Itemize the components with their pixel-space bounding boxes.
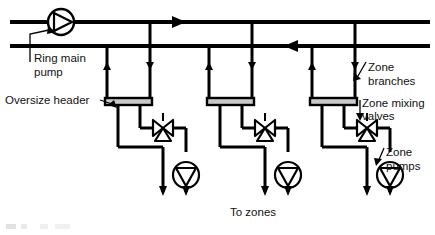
zone-mixing-valves-label-line1: Zone mixing [362,97,425,109]
zone-2-arrow-b-icon [248,62,256,70]
label-zone-branches: Zone branches [368,61,416,87]
label-zone-pumps: Zone pumps [386,146,421,172]
flow-arrow-top-right [172,16,186,28]
to-zones-label: To zones [230,206,276,218]
zone-1-arrow-b-icon [146,62,154,70]
oversize-header-2 [207,98,254,105]
zone-branches-label-line1: Zone [368,61,394,73]
label-ring-main-pump: Ring main pump [34,52,86,78]
ring-main-pump-label-line1: Ring main [34,52,86,64]
page-artifact [6,224,76,229]
oversize-header-3 [310,98,357,105]
zone-pumps-label-line2: pumps [386,160,421,172]
zone-2-bottom-arrows [261,186,292,196]
zone-mixing-valve-2[interactable] [255,113,275,141]
zone-3-bottom-arrows [363,186,394,196]
zone-1-bottom-arrows [159,186,190,196]
leader-zone-branches [358,62,366,76]
label-zone-mixing-valves: Zone mixing valves [362,97,425,122]
zone-2-arrow-a-icon [205,62,213,70]
zone-pump-2[interactable] [275,162,301,188]
zone-3-arrow-a-icon [308,62,316,70]
piping-schematic: Ring main pump Oversize header Zone bran… [0,0,435,235]
zone-mixing-valves-label-line2: valves [362,110,395,122]
ring-main-pump-label-line2: pump [34,66,63,78]
zone-1-arrow-a-icon [103,62,111,70]
zone-branches-label-line2: branches [368,75,416,87]
zone-mixing-valve-1[interactable] [153,113,173,141]
flow-arrow-return-left [284,40,298,52]
oversize-header-label: Oversize header [5,94,90,106]
zone-3-arrow-b-icon [351,62,359,70]
zone-pumps-label-line1: Zone [386,146,412,158]
zone-pump-1[interactable] [173,162,199,188]
